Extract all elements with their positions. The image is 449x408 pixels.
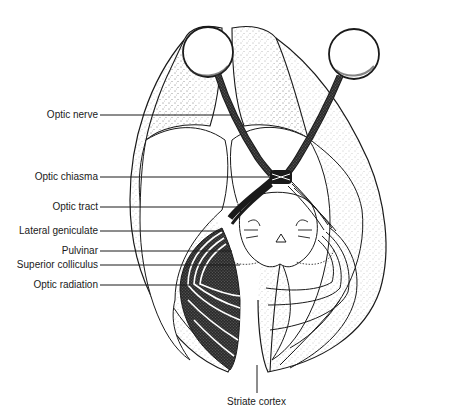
label-striate-cortex: Striate cortex: [227, 396, 286, 407]
eyeball-left: [183, 27, 233, 77]
label-pulvinar: Pulvinar: [0, 245, 98, 256]
label-optic-tract: Optic tract: [0, 201, 98, 212]
label-optic-nerve: Optic nerve: [0, 109, 98, 120]
eyeball-right: [329, 29, 379, 79]
label-optic-radiation: Optic radiation: [0, 279, 98, 290]
label-optic-chiasma: Optic chiasma: [0, 171, 98, 182]
label-lateral-geniculate: Lateral geniculate: [0, 225, 98, 236]
label-superior-colliculus: Superior colliculus: [0, 259, 98, 270]
visual-pathway-diagram: Optic nerve Optic chiasma Optic tract La…: [0, 0, 449, 408]
